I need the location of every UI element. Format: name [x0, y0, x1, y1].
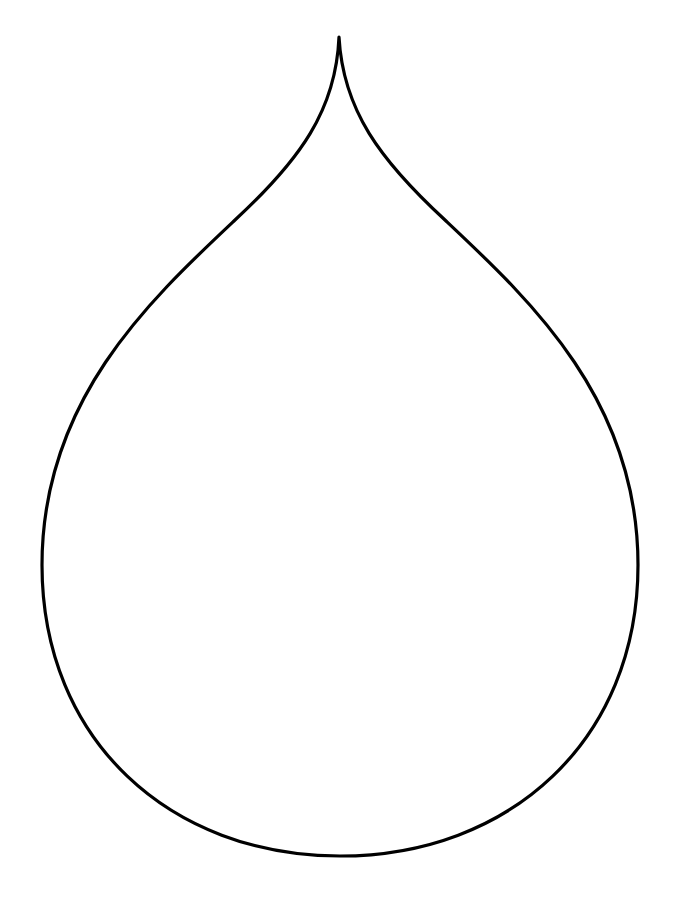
teardrop-outline: [42, 37, 638, 856]
drawing-canvas: [0, 0, 678, 902]
teardrop-figure: [0, 0, 678, 902]
